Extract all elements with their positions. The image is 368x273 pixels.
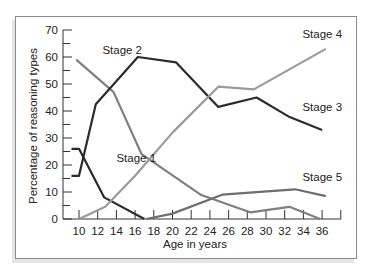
line-chart: 010203040506070 101214161820222426283032… — [0, 0, 368, 273]
series-stage-3-line — [72, 57, 323, 176]
x-tick-label: 36 — [316, 225, 329, 237]
x-tick-label: 26 — [222, 225, 235, 237]
x-tick-label: 20 — [166, 225, 179, 237]
y-tick-label: 0 — [52, 213, 58, 225]
series-label-stage-5: Stage 5 — [302, 171, 342, 183]
y-tick-label: 10 — [45, 186, 58, 198]
x-tick-label: 14 — [110, 225, 123, 237]
y-tick-label: 30 — [45, 132, 58, 144]
y-tick-label: 20 — [45, 159, 58, 171]
x-axis-title: Age in years — [163, 238, 227, 250]
x-tick-label: 34 — [297, 225, 310, 237]
x-tick-label: 18 — [147, 225, 160, 237]
series-stage-4-line — [79, 49, 326, 219]
x-tick-label: 22 — [185, 225, 198, 237]
series-label-stage-4: Stage 4 — [302, 28, 342, 40]
x-tick-label: 30 — [260, 225, 273, 237]
x-tick-label: 16 — [129, 225, 142, 237]
series-label-stage-1: Stage 1 — [116, 152, 156, 164]
series-stage-5-line — [146, 189, 325, 219]
series-lines — [72, 49, 326, 219]
x-axis: 1012141618202224262830323436 — [63, 210, 341, 237]
x-tick-label: 10 — [73, 225, 86, 237]
y-tick-label: 50 — [45, 78, 58, 90]
series-label-stage-2: Stage 2 — [102, 44, 142, 56]
y-tick-label: 70 — [45, 24, 58, 36]
x-tick-label: 28 — [241, 225, 254, 237]
x-tick-label: 12 — [91, 225, 104, 237]
y-tick-label: 60 — [45, 51, 58, 63]
y-axis: 010203040506070 — [45, 24, 72, 225]
x-tick-label: 32 — [278, 225, 291, 237]
y-tick-label: 40 — [45, 105, 58, 117]
x-tick-label: 24 — [204, 225, 217, 237]
y-axis-title: Percentage of reasoning types — [27, 48, 39, 204]
series-label-stage-3: Stage 3 — [302, 101, 342, 113]
